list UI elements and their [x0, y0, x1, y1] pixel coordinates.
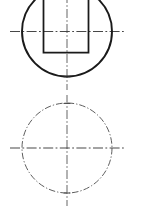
technical-drawing-canvas: Orthographic Engineering Drawing — [0, 0, 143, 221]
drawing-sheet: Orthographic Engineering Drawing — [0, 0, 143, 221]
